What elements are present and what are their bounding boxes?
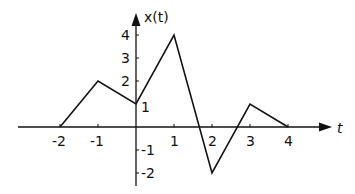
x-tick-label: 4	[284, 133, 293, 149]
y-tick-label: 3	[121, 50, 130, 66]
signal-plot: x(t) t -2 -1 1 2 3 4 4 3 2 1 -1 -2	[0, 0, 355, 194]
y-axis-label: x(t)	[144, 9, 169, 25]
y-tick-label: 2	[121, 73, 130, 89]
y-tick-label: -2	[141, 165, 155, 181]
x-tick-label: -2	[52, 133, 66, 149]
y-axis-arrow-icon	[132, 13, 141, 26]
x-tick-label: -1	[90, 133, 104, 149]
signal-line	[60, 35, 288, 173]
y-tick-label: 4	[121, 27, 130, 43]
x-tick-label: 1	[170, 133, 179, 149]
x-tick-label: 2	[208, 133, 217, 149]
x-axis-label: t	[337, 120, 343, 136]
y-tick-label: 1	[141, 99, 150, 115]
y-tick-label: -1	[141, 142, 155, 158]
x-axis-arrow-icon	[319, 123, 332, 132]
x-tick-label: 3	[246, 133, 255, 149]
